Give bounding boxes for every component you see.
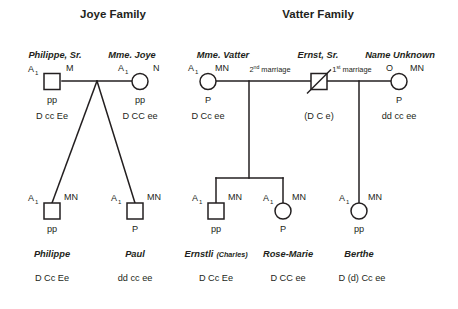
allele-left-name-unknown: O xyxy=(386,63,393,73)
person-name-name-unknown: Name Unknown xyxy=(365,50,435,60)
genotype-ernst-sr: (D C e) xyxy=(304,111,334,121)
allele-left-philippe: A xyxy=(28,193,34,203)
genotype-philippe-sr: D cc Ee xyxy=(36,111,68,121)
female-circle-icon xyxy=(132,74,148,90)
svg-text:2ndmarriage: 2ndmarriage xyxy=(249,64,290,74)
allele-left-berthe: A xyxy=(339,193,345,203)
descent-line-paul xyxy=(97,81,135,203)
marker-below-berthe: pp xyxy=(354,224,364,234)
marker-below-rose-marie: P xyxy=(280,224,286,234)
allele-right-mme-vatter: MN xyxy=(215,63,229,73)
genotype-ernstli: D Cc Ee xyxy=(199,273,233,283)
allele-right-paul: MN xyxy=(147,192,161,202)
family-title-joye: Joye Family xyxy=(80,8,146,20)
male-square-icon xyxy=(44,74,60,90)
family-title-vatter: Vatter Family xyxy=(282,8,354,20)
allele-left-sub-rose-marie: 1 xyxy=(270,199,274,205)
male-square-icon xyxy=(44,203,60,219)
person-symbol-paul: A 1 MN P Paul dd cc ee xyxy=(111,192,161,283)
genotype-mme-vatter: D Cc ee xyxy=(191,111,224,121)
allele-left-sub-mme-joye: 1 xyxy=(125,69,129,75)
genotype-berthe: D (d) Cc ee xyxy=(339,273,386,283)
person-symbol-mme-joye: A 1 N pp D CC ee xyxy=(118,63,160,121)
female-circle-icon xyxy=(275,203,291,219)
family-vatter: Vatter Family Mme. Vatter Ernst, Sr. Nam… xyxy=(184,8,435,283)
allele-left-rose-marie: A xyxy=(263,193,269,203)
person-name-ernst-sr: Ernst, Sr. xyxy=(298,50,339,60)
joye-pedigree-lines xyxy=(52,81,135,203)
allele-right-berthe: MN xyxy=(368,192,382,202)
allele-left-philippe-sr: A xyxy=(28,64,34,74)
pedigree-chart: Joye Family Philippe, Sr. Mme. Joye A 1 … xyxy=(0,0,458,309)
person-symbol-ernst-sr: (D C e) xyxy=(304,70,334,122)
descent-line-philippe xyxy=(52,81,97,203)
marriage-label-first: 1stmarriage xyxy=(332,64,371,74)
genotype-rose-marie: D CC ee xyxy=(270,273,305,283)
genotype-paul: dd cc ee xyxy=(118,273,153,283)
allele-left-paul: A xyxy=(111,193,117,203)
person-symbol-philippe-sr: A 1 M pp D cc Ee xyxy=(28,63,74,121)
person-name-rose-marie: Rose-Marie xyxy=(263,249,313,259)
marriage-label-text-second: marriage xyxy=(261,65,290,74)
marker-below-ernstli: pp xyxy=(211,224,221,234)
marriage-label-second: 2ndmarriage xyxy=(249,64,290,74)
allele-left-sub-paul: 1 xyxy=(118,199,122,205)
allele-left-sub-philippe: 1 xyxy=(35,199,39,205)
marker-below-philippe-sr: pp xyxy=(47,95,57,105)
marriage-ordinal-suffix-second: nd xyxy=(254,64,260,70)
allele-left-mme-vatter: A xyxy=(188,63,194,73)
marker-below-name-unknown: P xyxy=(396,95,402,105)
person-name-philippe-sr: Philippe, Sr. xyxy=(28,50,81,60)
marker-below-philippe: pp xyxy=(47,224,57,234)
person-name-paul: Paul xyxy=(125,249,145,259)
allele-left-sub-ernstli: 1 xyxy=(199,199,203,205)
person-symbol-mme-vatter: A 1 MN P D Cc ee xyxy=(188,63,229,121)
marker-below-mme-joye: pp xyxy=(135,95,145,105)
genotype-mme-joye: D CC ee xyxy=(122,111,157,121)
allele-right-rose-marie: MN xyxy=(292,192,306,202)
genotype-philippe: D Cc Ee xyxy=(35,273,69,283)
allele-right-philippe: MN xyxy=(64,192,78,202)
person-symbol-philippe: A 1 MN pp Philippe D Cc Ee xyxy=(28,192,78,283)
allele-left-ernstli: A xyxy=(192,193,198,203)
allele-left-sub-mme-vatter: 1 xyxy=(195,69,199,75)
person-symbol-name-unknown: O MN P dd cc ee xyxy=(382,63,424,121)
allele-right-ernstli: MN xyxy=(228,192,242,202)
allele-left-sub-philippe-sr: 1 xyxy=(35,70,39,76)
person-name-ernstli: Ernstli xyxy=(184,249,213,259)
allele-right-mme-joye: N xyxy=(153,63,160,73)
person-symbol-berthe: A 1 MN pp Berthe D (d) Cc ee xyxy=(339,192,386,283)
person-alias-ernstli: (Charles) xyxy=(216,250,248,259)
person-name-ernstli-group: Ernstli(Charles) xyxy=(184,249,248,259)
male-square-icon xyxy=(127,203,143,219)
svg-text:1stmarriage: 1stmarriage xyxy=(332,64,371,74)
allele-right-philippe-sr: M xyxy=(66,63,74,73)
person-symbol-rose-marie: A 1 MN P Rose-Marie D CC ee xyxy=(263,192,313,283)
person-symbol-ernstli: A 1 MN pp Ernstli(Charles) D Cc Ee xyxy=(184,192,248,283)
person-name-philippe: Philippe xyxy=(34,249,70,259)
female-circle-icon xyxy=(391,74,407,90)
vatter-pedigree-lines xyxy=(216,81,391,203)
male-square-icon xyxy=(208,203,224,219)
marker-below-mme-vatter: P xyxy=(205,95,211,105)
allele-left-sub-berthe: 1 xyxy=(346,199,350,205)
person-name-mme-vatter: Mme. Vatter xyxy=(197,50,251,60)
female-circle-icon xyxy=(200,74,216,90)
allele-left-mme-joye: A xyxy=(118,63,124,73)
genotype-name-unknown: dd cc ee xyxy=(382,111,417,121)
person-name-mme-joye: Mme. Joye xyxy=(108,50,156,60)
female-circle-icon xyxy=(351,203,367,219)
marker-below-paul: P xyxy=(132,224,138,234)
marriage-ordinal-suffix-first: st xyxy=(336,64,341,70)
person-name-berthe: Berthe xyxy=(344,249,373,259)
marriage-label-text-first: marriage xyxy=(343,65,372,74)
allele-right-name-unknown: MN xyxy=(410,63,424,73)
family-joye: Joye Family Philippe, Sr. Mme. Joye A 1 … xyxy=(28,8,161,283)
